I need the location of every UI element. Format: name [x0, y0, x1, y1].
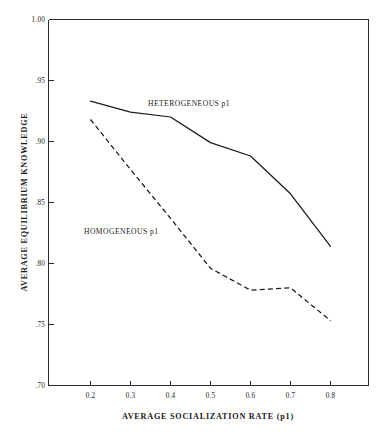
series-label-homogeneous: HOMOGENEOUS p1 [84, 227, 158, 236]
x-tick-label-0.5: 0.5 [206, 392, 216, 400]
y-tick-label-.80: .80 [35, 260, 45, 268]
plot-frame [49, 20, 369, 386]
x-axis-title: AVERAGE SOCIALIZATION RATE (p1) [122, 412, 294, 421]
chart-figure: 1.00 .95 .90 .85 .80 .75 .70 0.2 0.3 0.4… [0, 0, 389, 441]
x-tick-label-0.7: 0.7 [286, 392, 296, 400]
y-tick-label-.95: .95 [35, 77, 45, 85]
y-axis-title: AVERAGE EQUILIBRIUM KNOWLEDGE [20, 112, 29, 291]
series-line-heterogeneous [91, 101, 331, 246]
x-tick-label-0.2: 0.2 [86, 392, 96, 400]
series-label-heterogeneous: HETEROGENEOUS p1 [148, 99, 230, 108]
y-tick-label-1.00: 1.00 [32, 16, 46, 24]
series-line-homogeneous [91, 120, 331, 321]
x-axis-tick-labels: 0.2 0.3 0.4 0.5 0.6 0.7 0.8 [86, 392, 336, 400]
y-tick-label-.70: .70 [35, 382, 45, 390]
x-tick-label-0.6: 0.6 [246, 392, 256, 400]
y-tick-label-.90: .90 [35, 138, 45, 146]
x-tick-label-0.3: 0.3 [126, 392, 136, 400]
y-axis-ticks [49, 20, 54, 386]
y-axis-tick-labels: 1.00 .95 .90 .85 .80 .75 .70 [32, 16, 46, 390]
line-chart-svg: 1.00 .95 .90 .85 .80 .75 .70 0.2 0.3 0.4… [0, 0, 389, 441]
x-tick-label-0.4: 0.4 [166, 392, 176, 400]
y-tick-label-.85: .85 [35, 199, 45, 207]
x-tick-label-0.8: 0.8 [326, 392, 336, 400]
x-axis-ticks [91, 381, 331, 386]
y-tick-label-.75: .75 [35, 321, 45, 329]
